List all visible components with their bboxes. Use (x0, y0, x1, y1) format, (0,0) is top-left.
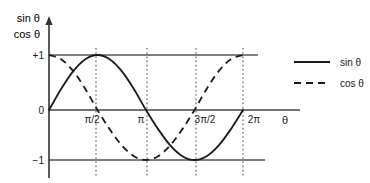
trig-functions-chart: sin θ cos θ +1 0 −1 π/2 π 3π/2 2π θ sin … (0, 0, 370, 183)
x-tick-label-pi: π (138, 114, 145, 125)
chart-background (0, 0, 370, 183)
y-tick-label-zero: 0 (38, 105, 44, 116)
legend-label-sin: sin θ (340, 57, 362, 68)
x-tick-label-half-pi: π/2 (84, 114, 100, 125)
x-tick-label-three-half-pi: 3π/2 (195, 114, 216, 125)
y-tick-label-plus-one: +1 (33, 50, 45, 61)
y-axis-title-line2: cos θ (14, 28, 40, 40)
x-axis-title: θ (282, 114, 288, 126)
y-axis-title-line1: sin θ (17, 12, 40, 24)
y-tick-label-minus-one: −1 (33, 155, 45, 166)
legend-label-cos: cos θ (340, 78, 364, 89)
x-tick-label-two-pi: 2π (248, 114, 261, 125)
